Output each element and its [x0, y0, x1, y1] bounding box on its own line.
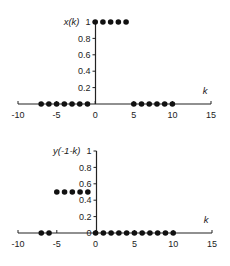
- data-point: [155, 230, 161, 236]
- x-tick-label: 5: [132, 239, 137, 249]
- data-point: [124, 230, 130, 236]
- data-point: [108, 230, 114, 236]
- data-point: [116, 230, 122, 236]
- data-point: [139, 230, 145, 236]
- y-tick-label: 1: [86, 146, 91, 156]
- data-point: [93, 230, 99, 236]
- y-tick-label: 0: [86, 228, 91, 238]
- y-axis-title: y(-1-k): [52, 145, 80, 156]
- data-point: [170, 230, 176, 236]
- y-tick-label: 0.4: [79, 195, 92, 205]
- data-point: [85, 189, 91, 195]
- y-tick-label: 0.2: [79, 212, 92, 222]
- x-axis-title: k: [204, 214, 210, 225]
- data-point: [77, 189, 83, 195]
- data-point: [62, 189, 68, 195]
- x-tick-label: 10: [168, 239, 178, 249]
- data-point: [163, 230, 169, 236]
- data-point: [46, 230, 52, 236]
- x-tick-label: 15: [207, 239, 217, 249]
- x-tick-label: -10: [11, 239, 24, 249]
- data-point: [132, 230, 138, 236]
- data-point: [54, 189, 60, 195]
- data-point: [38, 230, 44, 236]
- chart-y-of-minus-1-minus-k: -10-505101500.20.40.60.81y(-1-k)k: [0, 0, 230, 266]
- x-tick-label: 0: [93, 239, 98, 249]
- y-tick-label: 0.8: [79, 163, 92, 173]
- y-tick-label: 0.6: [79, 179, 92, 189]
- data-point: [70, 189, 76, 195]
- figure: -10-50510150.20.40.60.81x(k)k -10-505101…: [0, 0, 230, 266]
- data-point: [147, 230, 153, 236]
- data-point: [101, 230, 107, 236]
- x-tick-label: -5: [53, 239, 61, 249]
